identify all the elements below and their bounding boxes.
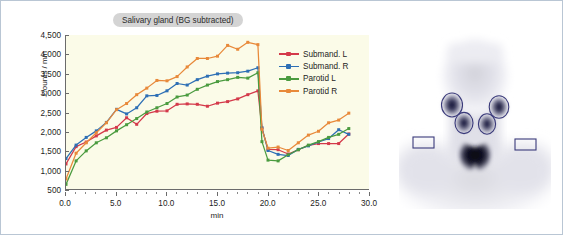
legend-swatch-icon [279,78,299,80]
chart-title: Salivary gland (BG subtracted) [113,13,243,27]
x-minor-tick [106,192,107,194]
data-point [196,103,199,106]
data-point [236,48,239,51]
data-point [277,146,280,149]
x-minor-tick [136,192,137,194]
data-point [105,129,108,132]
x-tick-mark [217,192,218,196]
data-point [317,140,320,143]
data-point [85,141,88,144]
data-point [337,128,340,131]
y-tick-mark [65,171,69,172]
legend-label: Submand. R [303,62,349,71]
legend-item[interactable]: Parotid L [279,73,349,85]
y-tick-mark [65,35,69,36]
data-point [135,117,138,120]
data-point [125,123,128,126]
data-point [297,141,300,144]
y-tick-label: 2,500 [15,108,61,117]
data-point [347,133,350,136]
data-point [327,142,330,145]
data-point [267,147,270,150]
y-tick-label: 4,500 [15,31,61,40]
data-point [287,149,290,152]
y-tick-label: 2,000 [15,127,61,136]
data-point [66,157,67,160]
data-point [226,100,229,103]
x-tick-mark [65,192,66,196]
data-point [196,88,199,91]
y-tick-mark [65,190,69,191]
data-point [327,121,330,124]
data-point [105,136,108,139]
y-axis-tick-labels: 5001,0001,5002,0002,5003,0003,5004,0004,… [11,35,61,190]
data-point [260,128,263,131]
data-point [145,87,148,90]
x-tick-label: 20.0 [260,199,276,208]
data-point [115,108,118,111]
x-minor-tick [288,192,289,194]
data-point [176,82,179,85]
legend-item[interactable]: Submand. L [279,48,349,60]
data-point [125,112,128,115]
legend-item[interactable]: Submand. R [279,60,349,72]
data-point [216,102,219,105]
data-point [85,149,88,152]
data-point [105,121,108,124]
data-point [246,70,249,73]
data-point [297,148,300,151]
data-point [196,78,199,81]
x-tick-mark [116,192,117,196]
data-point [145,94,148,97]
x-tick-mark [166,192,167,196]
data-point [337,142,340,145]
data-point [145,111,148,114]
data-point [236,76,239,79]
data-point [277,153,280,156]
data-point [226,72,229,75]
x-minor-tick [176,192,177,194]
x-minor-tick [328,192,329,194]
x-minor-tick [237,192,238,194]
x-minor-tick [156,192,157,194]
legend-swatch-icon [279,53,299,55]
data-point [95,131,98,134]
data-point [206,75,209,78]
x-tick-label: 30.0 [361,199,377,208]
data-point [166,89,169,92]
figure-container: Salivary gland (BG subtracted) Counts / … [0,0,563,235]
data-point [135,106,138,109]
data-point [135,93,138,96]
data-point [176,103,179,106]
x-minor-tick [359,192,360,194]
x-minor-tick [349,192,350,194]
y-tick-label: 3,500 [15,69,61,78]
data-point [236,71,239,74]
legend-swatch-icon [279,90,299,92]
data-point [66,162,67,165]
x-minor-tick [298,192,299,194]
legend-item[interactable]: Parotid R [279,85,349,97]
data-point [125,102,128,105]
x-tick-label: 15.0 [209,199,225,208]
data-point [347,127,350,130]
data-point [216,55,219,58]
data-point [246,93,249,96]
data-point [135,123,138,126]
data-point [307,134,310,137]
x-axis-label: min [65,211,369,220]
data-point [186,102,189,105]
y-tick-mark [65,74,69,75]
data-point [317,130,320,133]
data-point [186,84,189,87]
data-point [226,44,229,47]
data-point [166,109,169,112]
data-point [75,144,78,147]
data-point [307,144,310,147]
data-point [186,94,189,97]
data-point [256,43,259,46]
data-point [337,133,340,136]
x-minor-tick [197,192,198,194]
data-point [206,105,209,108]
y-tick-label: 1,000 [15,166,61,175]
